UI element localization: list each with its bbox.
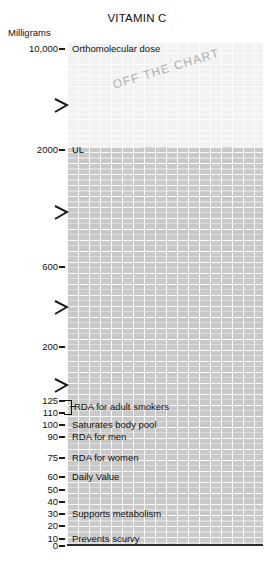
axis-break-icon: [53, 299, 69, 316]
annotation-ul: UL: [72, 145, 84, 155]
tick-label-20: 20: [47, 521, 58, 531]
tick-mark: [59, 266, 65, 268]
annotation-saturates-body-pool: Saturates body pool: [72, 420, 157, 430]
tick-mark: [59, 525, 65, 527]
plot-band-below-ul: [67, 148, 263, 545]
tick-label-75: 75: [47, 453, 58, 463]
tick-label-60: 60: [47, 472, 58, 482]
tick-label-10000: 10,000: [29, 44, 58, 54]
tick-mark: [59, 424, 65, 426]
tick-label-110: 110: [43, 408, 58, 418]
tick-mark: [59, 149, 65, 151]
tick-mark: [59, 538, 65, 540]
annotation-rda-adult-smokers: RDA for adult smokers: [74, 402, 169, 412]
tick-label-50: 50: [47, 485, 58, 495]
tick-label-100: 100: [42, 420, 58, 430]
axis-break-icon: [53, 97, 69, 114]
annotation-rda-men: RDA for men: [72, 432, 126, 442]
annotation-orthomolecular-dose: Orthomolecular dose: [72, 44, 160, 54]
tick-mark: [59, 501, 65, 503]
vitamin-c-chart: VITAMIN C Milligrams OFF THE CHART 10,00…: [0, 0, 274, 566]
tick-label-125: 125: [42, 396, 58, 406]
tick-label-600: 600: [42, 262, 58, 272]
plot-band-above-ul: [67, 42, 263, 149]
tick-mark: [59, 489, 65, 491]
tick-mark: [59, 48, 65, 50]
x-axis-line: [67, 544, 263, 546]
ul-wave-boundary: [67, 140, 263, 152]
annotation-supports-metabolism: Supports metabolism: [72, 509, 161, 519]
annotation-prevents-scurvy: Prevents scurvy: [72, 534, 140, 544]
tick-label-30: 30: [47, 509, 58, 519]
tick-mark: [59, 545, 65, 547]
tick-mark: [59, 457, 65, 459]
tick-mark: [59, 513, 65, 515]
axis-break-icon: [53, 204, 69, 221]
tick-label-90: 90: [47, 432, 58, 442]
tick-mark: [59, 476, 65, 478]
tick-label-40: 40: [47, 497, 58, 507]
tick-mark: [59, 346, 65, 348]
y-axis-units-label: Milligrams: [8, 27, 51, 38]
plot-area: OFF THE CHART: [67, 42, 263, 545]
tick-label-2000: 2000: [37, 145, 58, 155]
axis-break-icon: [53, 377, 69, 394]
chart-title: VITAMIN C: [0, 12, 274, 24]
tick-label-200: 200: [42, 342, 58, 352]
annotation-daily-value: Daily Value: [72, 472, 119, 482]
annotation-rda-women: RDA for women: [72, 453, 139, 463]
tick-mark: [59, 436, 65, 438]
range-bracket-110-125: [64, 400, 72, 415]
tick-label-0: 0: [53, 541, 58, 551]
